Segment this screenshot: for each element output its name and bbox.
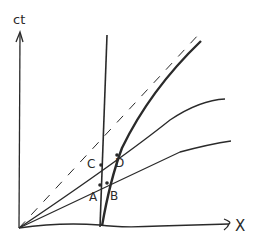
x-axis [19,224,229,228]
spacetime-diagram: ct X A B C D [0,0,259,242]
point-b-label: B [110,189,118,203]
point-c-dot [99,163,103,167]
point-c-label: C [87,157,95,171]
x-axis-label: X [235,217,245,235]
ct-axis-label: ct [13,12,25,27]
point-a-label: A [89,190,98,204]
point-d-label: D [115,156,124,170]
point-b-dot [105,181,109,185]
point-a-dot [98,183,102,187]
diagram-svg: ct X A B C D [0,0,259,242]
ct-axis [19,33,20,228]
vertical-worldline [100,35,107,227]
